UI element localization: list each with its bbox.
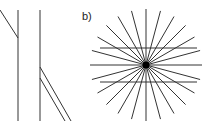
panel-b-label: b) (82, 10, 92, 22)
radial-ray (146, 11, 160, 65)
radial-ray (132, 65, 146, 119)
radial-ray (146, 65, 160, 119)
diagonal-line (40, 67, 71, 121)
center-dot (143, 62, 150, 69)
illusion-figure (0, 0, 210, 123)
radial-ray (92, 51, 146, 65)
radial-ray (132, 11, 146, 65)
radial-ray (92, 65, 146, 79)
diagonal-line (40, 78, 65, 121)
radial-ray (146, 65, 200, 79)
diagonal-line (0, 10, 18, 38)
radial-ray (146, 51, 200, 65)
